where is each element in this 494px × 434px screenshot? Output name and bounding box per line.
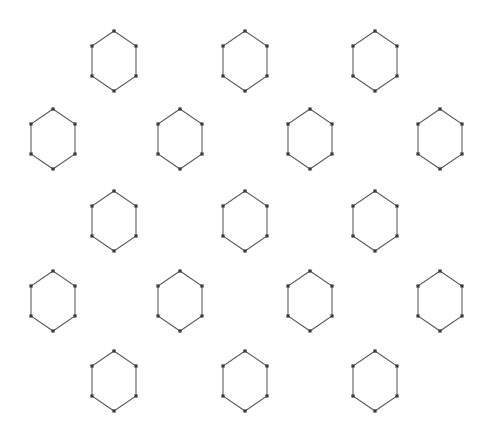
hexagon-vertex-dot: [112, 349, 115, 352]
hexagon-cell: [416, 107, 463, 170]
hexagon-cell: [90, 349, 137, 412]
hexagon-cell: [90, 29, 137, 92]
hexagon-vertex-dot: [221, 74, 224, 77]
hexagon-vertex-dot: [90, 364, 93, 367]
hexagon-vertex-dot: [416, 284, 419, 287]
hexagon-group: [29, 29, 463, 412]
hexagon-vertex-dot: [112, 89, 115, 92]
hexagon-vertex-dot: [330, 152, 333, 155]
hexagon-vertex-dot: [243, 409, 246, 412]
hexagon-outline: [223, 31, 267, 91]
hexagon-vertex-dot: [200, 284, 203, 287]
hexagon-vertex-dot: [29, 122, 32, 125]
hexagon-vertex-dot: [438, 167, 441, 170]
hexagon-cell: [221, 29, 268, 92]
hexagon-vertex-dot: [460, 152, 463, 155]
hexagon-vertex-dot: [351, 44, 354, 47]
hexagon-vertex-dot: [286, 314, 289, 317]
hexagon-vertex-dot: [221, 394, 224, 397]
hexagon-vertex-dot: [243, 249, 246, 252]
hexagon-vertex-dot: [178, 107, 181, 110]
hexagon-outline: [288, 271, 332, 331]
hexagon-vertex-dot: [373, 409, 376, 412]
lattice-canvas: [0, 0, 494, 434]
hexagon-vertex-dot: [243, 349, 246, 352]
hexagon-outline: [223, 191, 267, 251]
hexagon-vertex-dot: [178, 269, 181, 272]
hexagon-vertex-dot: [286, 152, 289, 155]
hexagon-vertex-dot: [90, 234, 93, 237]
hexagon-vertex-dot: [200, 314, 203, 317]
hexagon-vertex-dot: [351, 364, 354, 367]
hexagon-cell: [351, 189, 398, 252]
hexagon-outline: [92, 191, 136, 251]
hexagon-vertex-dot: [221, 234, 224, 237]
hexagon-vertex-dot: [265, 74, 268, 77]
hexagon-vertex-dot: [243, 89, 246, 92]
hexagon-vertex-dot: [351, 394, 354, 397]
hexagon-vertex-dot: [134, 234, 137, 237]
hexagon-vertex-dot: [395, 364, 398, 367]
hexagon-cell: [221, 349, 268, 412]
hexagon-vertex-dot: [200, 152, 203, 155]
hexagon-outline: [223, 351, 267, 411]
hexagon-vertex-dot: [395, 394, 398, 397]
hexagon-vertex-dot: [265, 204, 268, 207]
hexagon-vertex-dot: [73, 152, 76, 155]
hexagon-vertex-dot: [221, 364, 224, 367]
hexagon-vertex-dot: [286, 284, 289, 287]
hexagon-vertex-dot: [308, 167, 311, 170]
hexagon-vertex-dot: [460, 122, 463, 125]
hexagon-vertex-dot: [112, 189, 115, 192]
hexagon-cell: [286, 107, 333, 170]
hexagon-cell: [90, 189, 137, 252]
hexagon-vertex-dot: [134, 394, 137, 397]
hexagon-vertex-dot: [134, 204, 137, 207]
hexagon-vertex-dot: [265, 364, 268, 367]
hexagon-vertex-dot: [51, 167, 54, 170]
hexagon-vertex-dot: [373, 29, 376, 32]
hexagon-cell: [156, 107, 203, 170]
hexagon-vertex-dot: [438, 107, 441, 110]
hexagon-vertex-dot: [112, 249, 115, 252]
hexagon-vertex-dot: [243, 189, 246, 192]
hexagon-vertex-dot: [330, 122, 333, 125]
hexagon-vertex-dot: [134, 364, 137, 367]
hexagon-outline: [353, 191, 397, 251]
hexagon-vertex-dot: [416, 314, 419, 317]
hexagon-vertex-dot: [395, 74, 398, 77]
hexagon-vertex-dot: [90, 394, 93, 397]
hexagon-outline: [418, 109, 462, 169]
hexagon-vertex-dot: [221, 44, 224, 47]
hexagon-vertex-dot: [178, 167, 181, 170]
hexagon-cell: [29, 107, 76, 170]
hexagon-vertex-dot: [29, 314, 32, 317]
hexagon-vertex-dot: [286, 122, 289, 125]
hexagon-vertex-dot: [156, 314, 159, 317]
hexagon-vertex-dot: [73, 122, 76, 125]
hexagon-vertex-dot: [265, 44, 268, 47]
hexagon-vertex-dot: [51, 329, 54, 332]
hexagon-vertex-dot: [156, 284, 159, 287]
hexagon-vertex-dot: [90, 204, 93, 207]
hexagon-vertex-dot: [51, 107, 54, 110]
hexagon-vertex-dot: [373, 249, 376, 252]
hexagon-outline: [158, 109, 202, 169]
hexagon-vertex-dot: [416, 122, 419, 125]
hexagon-outline: [31, 271, 75, 331]
hexagon-vertex-dot: [90, 74, 93, 77]
hexagon-vertex-dot: [156, 152, 159, 155]
hexagon-vertex-dot: [416, 152, 419, 155]
hexagon-vertex-dot: [460, 284, 463, 287]
hexagon-vertex-dot: [351, 74, 354, 77]
hexagon-vertex-dot: [265, 394, 268, 397]
hexagon-vertex-dot: [330, 284, 333, 287]
hexagon-vertex-dot: [460, 314, 463, 317]
hexagon-vertex-dot: [156, 122, 159, 125]
hexagon-vertex-dot: [73, 284, 76, 287]
hexagon-cell: [351, 349, 398, 412]
hexagon-vertex-dot: [351, 204, 354, 207]
hexagon-cell: [29, 269, 76, 332]
hexagon-cell: [286, 269, 333, 332]
hexagon-vertex-dot: [134, 74, 137, 77]
